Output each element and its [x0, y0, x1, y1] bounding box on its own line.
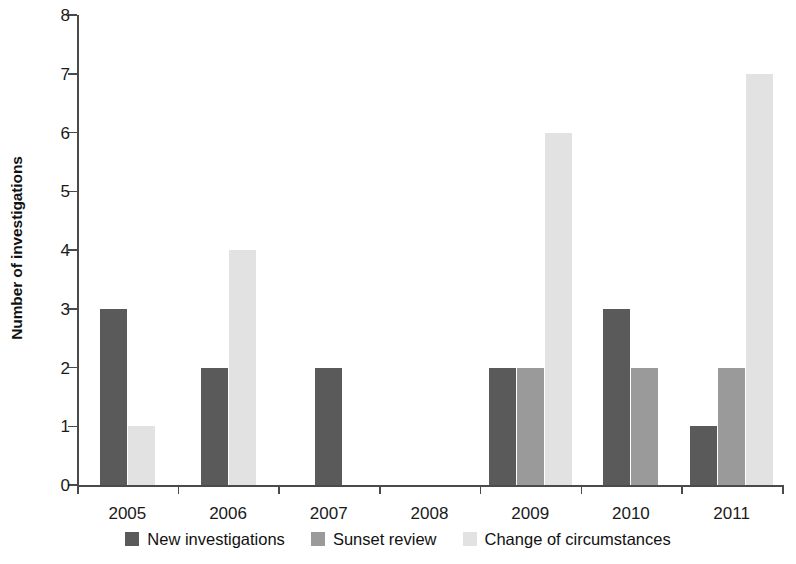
bar — [545, 133, 572, 486]
legend-swatch-icon — [463, 532, 477, 546]
x-axis-tick-mark — [278, 485, 280, 494]
x-axis-tick-label: 2011 — [713, 505, 750, 522]
legend-item-label: Sunset review — [333, 531, 437, 548]
x-axis-tick-mark — [178, 485, 180, 494]
x-axis-tick-label: 2010 — [612, 505, 650, 522]
y-axis-tick-label: 5 — [61, 183, 70, 200]
y-axis-line — [77, 15, 79, 485]
y-axis-tick-label: 6 — [61, 124, 70, 141]
y-axis-tick-label: 1 — [61, 418, 70, 435]
bar — [315, 368, 342, 486]
x-axis-tick-mark — [77, 485, 79, 494]
legend-item-label: New investigations — [147, 531, 285, 548]
legend-item: Sunset review — [311, 531, 437, 548]
plot-area: 012345678 2005200620072008200920102011 — [77, 15, 782, 485]
bar — [603, 309, 630, 485]
y-axis-tick-label: 8 — [61, 7, 70, 24]
x-axis-tick-label: 2006 — [209, 505, 247, 522]
bar — [718, 368, 745, 486]
legend-item: New investigations — [125, 531, 285, 548]
legend-swatch-icon — [125, 532, 139, 546]
bar — [201, 368, 228, 486]
bar — [631, 368, 658, 486]
y-axis-tick-label: 4 — [61, 242, 70, 259]
x-axis-tick-label: 2007 — [310, 505, 348, 522]
bar — [229, 250, 256, 485]
y-axis-tick-label: 2 — [61, 359, 70, 376]
bar — [690, 426, 717, 485]
x-axis-tick-mark — [782, 485, 784, 494]
x-axis-line — [77, 485, 782, 487]
y-axis-title-label: Number of investigations — [8, 156, 26, 340]
y-axis-title: Number of investigations — [0, 0, 34, 495]
y-axis-tick-label: 3 — [61, 300, 70, 317]
x-axis-tick-mark — [480, 485, 482, 494]
legend-item-label: Change of circumstances — [485, 531, 671, 548]
bar — [489, 368, 516, 486]
x-axis-tick-mark — [379, 485, 381, 494]
x-axis-tick-mark — [581, 485, 583, 494]
y-axis-tick-label: 0 — [61, 477, 70, 494]
bar — [128, 426, 155, 485]
bar — [100, 309, 127, 485]
x-axis-tick-mark — [681, 485, 683, 494]
x-axis-tick-label: 2009 — [511, 505, 549, 522]
bar — [517, 368, 544, 486]
bar — [746, 74, 773, 485]
legend-item: Change of circumstances — [463, 531, 671, 548]
x-axis-tick-label: 2005 — [108, 505, 146, 522]
x-axis-tick-label: 2008 — [411, 505, 449, 522]
legend-swatch-icon — [311, 532, 325, 546]
y-axis-tick-label: 7 — [61, 65, 70, 82]
chart-legend: New investigationsSunset reviewChange of… — [0, 531, 796, 548]
bar-chart: Number of investigations 012345678 20052… — [0, 0, 796, 564]
